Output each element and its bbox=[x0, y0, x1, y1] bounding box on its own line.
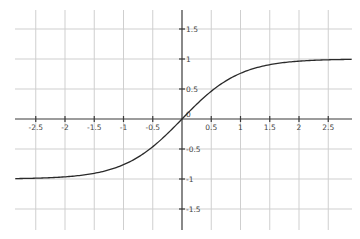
x-tick-label: 2 bbox=[297, 123, 302, 132]
y-tick-label: 1.5 bbox=[186, 25, 198, 34]
y-tick-label: 0.5 bbox=[186, 85, 198, 94]
y-tick-label: -0.5 bbox=[186, 145, 201, 154]
x-tick-label: 0.5 bbox=[205, 123, 217, 132]
x-tick-label: -0.5 bbox=[145, 123, 160, 132]
x-tick-label: -2 bbox=[61, 123, 69, 132]
x-tick-label: -2.5 bbox=[28, 123, 43, 132]
x-tick-label: -1.5 bbox=[87, 123, 102, 132]
y-tick-label: 1 bbox=[186, 55, 191, 64]
y-tick-label: -1 bbox=[186, 175, 194, 184]
x-tick-label: -1 bbox=[120, 123, 128, 132]
tanh-chart: -2.5-2-1.5-1-0.50.511.522.51.510.5-0.5-1… bbox=[0, 0, 360, 239]
x-tick-label: 1 bbox=[238, 123, 243, 132]
x-tick-label: 1.5 bbox=[264, 123, 276, 132]
x-tick-label: 2.5 bbox=[322, 123, 334, 132]
y-tick-label: -1.5 bbox=[186, 205, 201, 214]
